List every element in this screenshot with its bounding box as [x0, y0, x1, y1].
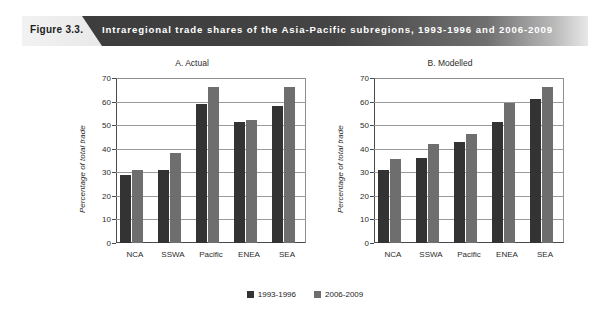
bar [416, 158, 427, 243]
x-category-label: SSWA [153, 250, 193, 259]
y-tick-mark [370, 243, 374, 244]
x-category-label: ENEA [229, 250, 269, 259]
y-tick-label: 40 [102, 144, 111, 153]
bar-group: SSWA [412, 78, 450, 243]
legend-swatch-icon [314, 291, 321, 298]
y-tick-label: 50 [360, 121, 369, 130]
x-category-label: ENEA [487, 250, 527, 259]
y-tick-label: 10 [102, 215, 111, 224]
bar [196, 104, 207, 243]
bar [428, 144, 439, 243]
x-category-label: NCA [373, 250, 413, 259]
chart-b-title: B. Modelled [330, 58, 570, 68]
bar [466, 134, 477, 243]
y-tick-label: 30 [360, 168, 369, 177]
bar-group: SEA [268, 78, 306, 243]
figure-number-label: Figure 3.3. [30, 24, 83, 35]
chart-b-bars: NCASSWAPacificENEASEA [374, 78, 564, 243]
chart-panel-a: A. Actual Percentage of total trade 7060… [72, 58, 312, 283]
bar-group: SSWA [154, 78, 192, 243]
bar-group: Pacific [450, 78, 488, 243]
bar [504, 103, 515, 243]
y-tick-label: 0 [365, 239, 369, 248]
chart-a-title: A. Actual [72, 58, 312, 68]
x-category-label: SEA [267, 250, 307, 259]
bar [390, 159, 401, 243]
bar [272, 106, 283, 243]
bar [208, 87, 219, 243]
y-tick-label: 20 [102, 191, 111, 200]
y-tick-label: 40 [360, 144, 369, 153]
bar-group: ENEA [488, 78, 526, 243]
x-category-label: SEA [525, 250, 565, 259]
legend-label: 2006-2009 [325, 290, 363, 299]
bar [378, 170, 389, 243]
bar-group: NCA [116, 78, 154, 243]
bar [542, 87, 553, 243]
chart-a-plot-area: 706050403020100 NCASSWAPacificENEASEA [116, 78, 306, 243]
chart-b-y-axis-label: Percentage of total trade [336, 201, 345, 213]
bar [246, 120, 257, 243]
y-tick-label: 0 [107, 239, 111, 248]
bar [132, 170, 143, 243]
x-category-label: SSWA [411, 250, 451, 259]
bar-group: ENEA [230, 78, 268, 243]
legend-label: 1993-1996 [258, 290, 296, 299]
bar [284, 87, 295, 243]
figure-page: Figure 3.3. Intraregional trade shares o… [0, 0, 610, 313]
y-tick-mark [112, 243, 116, 244]
y-tick-label: 60 [102, 97, 111, 106]
bar-group: SEA [526, 78, 564, 243]
chart-a-bars: NCASSWAPacificENEASEA [116, 78, 306, 243]
bar [530, 99, 541, 243]
y-tick-label: 10 [360, 215, 369, 224]
chart-b-plot-area: 706050403020100 NCASSWAPacificENEASEA [374, 78, 564, 243]
bar [170, 153, 181, 243]
x-category-label: Pacific [449, 250, 489, 259]
bar [234, 122, 245, 243]
legend-swatch-icon [247, 291, 254, 298]
legend-item: 2006-2009 [314, 290, 363, 299]
y-tick-label: 30 [102, 168, 111, 177]
x-category-label: Pacific [191, 250, 231, 259]
chart-panel-b: B. Modelled Percentage of total trade 70… [330, 58, 570, 283]
bar [492, 122, 503, 243]
figure-title: Intraregional trade shares of the Asia-P… [102, 24, 553, 35]
y-tick-label: 20 [360, 191, 369, 200]
x-category-label: NCA [115, 250, 155, 259]
bar [454, 142, 465, 243]
bar-group: NCA [374, 78, 412, 243]
chart-a-y-axis-label: Percentage of total trade [78, 201, 87, 213]
y-tick-label: 60 [360, 97, 369, 106]
y-tick-label: 50 [102, 121, 111, 130]
chart-legend: 1993-19962006-2009 [0, 290, 610, 299]
figure-banner: Figure 3.3. Intraregional trade shares o… [22, 16, 588, 46]
y-tick-label: 70 [102, 74, 111, 83]
bar-group: Pacific [192, 78, 230, 243]
legend-item: 1993-1996 [247, 290, 296, 299]
y-tick-label: 70 [360, 74, 369, 83]
bar [158, 170, 169, 243]
bar [120, 175, 131, 243]
